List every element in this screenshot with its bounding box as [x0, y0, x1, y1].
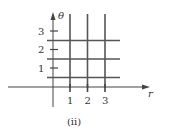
x-tick-label-1: 1 [67, 95, 73, 106]
x-axis-label: r [148, 88, 154, 99]
polar-grid-diagram: 3 2 1 1 2 3 θ r (ii) [0, 0, 170, 139]
y-tick-label-1: 1 [38, 63, 44, 74]
y-axis-label: θ [58, 10, 64, 21]
y-tick-label-3: 3 [38, 26, 44, 37]
x-tick-label-2: 2 [85, 95, 91, 106]
y-tick-label-2: 2 [38, 44, 44, 55]
x-tick-label-3: 3 [102, 95, 108, 106]
figure-caption: (ii) [67, 116, 81, 127]
y-axis-arrow-icon [51, 12, 56, 20]
